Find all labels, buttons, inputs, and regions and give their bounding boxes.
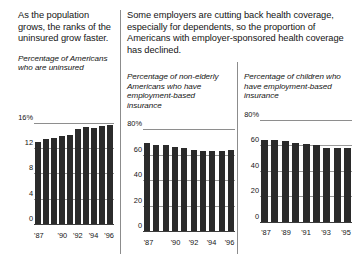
y-axis-tick-label: 12 <box>18 139 33 146</box>
chart-children-employment-based: 80%6040200 '87'89'91'93'95 <box>244 111 352 239</box>
x-axis-tick-label: '87 <box>261 229 271 236</box>
x-axis-tick-label: '95 <box>341 229 351 236</box>
left-panel-headline: As the population grows, the ranks of th… <box>18 10 114 45</box>
left-panel: As the population grows, the ranks of th… <box>18 10 114 256</box>
bar <box>344 148 351 222</box>
bar <box>313 145 320 222</box>
x-axis-tick-label: '90 <box>171 239 181 246</box>
bar <box>67 135 73 224</box>
x-axis-tick-label: '87 <box>144 239 154 246</box>
bar <box>191 150 197 232</box>
bar <box>200 151 206 231</box>
x-axis-tick-label: '94 <box>207 239 217 246</box>
right-panel-chart-row: Percentage of non-elderly Americans who … <box>127 72 352 248</box>
chart-nonelderly-employment-based: 80%6040200 '87'90'92'94'96 <box>127 120 235 248</box>
bar <box>292 143 299 222</box>
bar <box>271 140 278 222</box>
bar <box>75 129 81 224</box>
bar <box>99 126 105 224</box>
y-axis-tick-label: 80% <box>244 111 259 118</box>
chart3-subtitle: Percentage of children who have employme… <box>244 72 348 101</box>
bar <box>181 148 187 231</box>
bar <box>323 148 330 222</box>
y-axis-tick-label: 8 <box>18 164 33 171</box>
chart3-plot-area: 80%6040200 <box>244 111 352 222</box>
y-axis-tick-label: 0 <box>18 215 33 222</box>
y-axis-tick-label: 40 <box>244 162 259 169</box>
chart3-block: Percentage of children who have employme… <box>244 72 352 248</box>
x-axis-tick-label: '90 <box>57 232 67 239</box>
bar <box>153 145 159 232</box>
bar <box>43 139 49 224</box>
chart2-x-axis: '87'90'92'94'96 <box>144 234 234 248</box>
x-axis-tick-label: '94 <box>89 232 99 239</box>
bar <box>163 145 169 232</box>
bar <box>51 138 57 224</box>
chart3-x-axis: '87'89'91'93'95 <box>261 225 351 239</box>
y-axis-tick-label: 80% <box>127 120 142 127</box>
y-axis-tick-label: 20 <box>244 187 259 194</box>
chart2-subtitle: Percentage of non-elderly Americans who … <box>127 72 227 110</box>
bar <box>59 136 65 224</box>
gridline <box>34 224 114 225</box>
chart-uninsured-americans: 16%12840 '87'90'92'94'96 <box>18 113 114 241</box>
y-axis-tick-label: 40 <box>127 171 142 178</box>
bar <box>303 144 310 222</box>
y-axis-tick-label: 20 <box>127 197 142 204</box>
x-axis-tick-label: '92 <box>189 239 199 246</box>
chart2-block: Percentage of non-elderly Americans who … <box>127 72 235 248</box>
x-axis-tick-label: '87 <box>34 232 44 239</box>
infographic-figure: As the population grows, the ranks of th… <box>0 0 356 272</box>
bar <box>219 151 225 231</box>
y-axis-tick-label: 4 <box>18 190 33 197</box>
gridline <box>143 231 235 232</box>
x-axis-tick-label: '96 <box>104 232 114 239</box>
x-axis-tick-label: '96 <box>225 239 235 246</box>
panel-divider-main <box>120 10 121 254</box>
bar-series <box>35 113 113 224</box>
y-axis-tick-label: 60 <box>244 136 259 143</box>
right-panel: Some employers are cutting back health c… <box>127 10 352 256</box>
chart1-x-axis: '87'90'92'94'96 <box>35 227 113 241</box>
bar <box>35 142 41 224</box>
bar <box>91 128 97 224</box>
bar <box>209 151 215 231</box>
bar <box>334 148 341 222</box>
x-axis-tick-label: '91 <box>301 229 311 236</box>
bar <box>107 125 113 224</box>
x-axis-tick-label: '89 <box>281 229 291 236</box>
bar-series <box>261 111 351 222</box>
chart1-subtitle: Percentage of Americans who are uninsure… <box>18 54 110 73</box>
chart1-plot-area: 16%12840 <box>18 113 114 224</box>
x-axis-tick-label: '93 <box>321 229 331 236</box>
y-axis-tick-label: 16% <box>18 114 33 121</box>
bar <box>144 143 150 231</box>
right-panel-headline: Some employers are cutting back health c… <box>127 10 351 56</box>
bar-series <box>144 120 234 231</box>
y-axis-tick-label: 60 <box>127 146 142 153</box>
chart2-plot-area: 80%6040200 <box>127 120 235 231</box>
y-axis-tick-label: 0 <box>127 222 142 229</box>
gridline <box>260 222 352 223</box>
bar <box>172 147 178 231</box>
bar <box>282 141 289 221</box>
x-axis-tick-label: '92 <box>73 232 83 239</box>
bar <box>261 140 268 222</box>
bar <box>228 150 234 232</box>
bar <box>83 127 89 224</box>
y-axis-tick-label: 0 <box>244 213 259 220</box>
